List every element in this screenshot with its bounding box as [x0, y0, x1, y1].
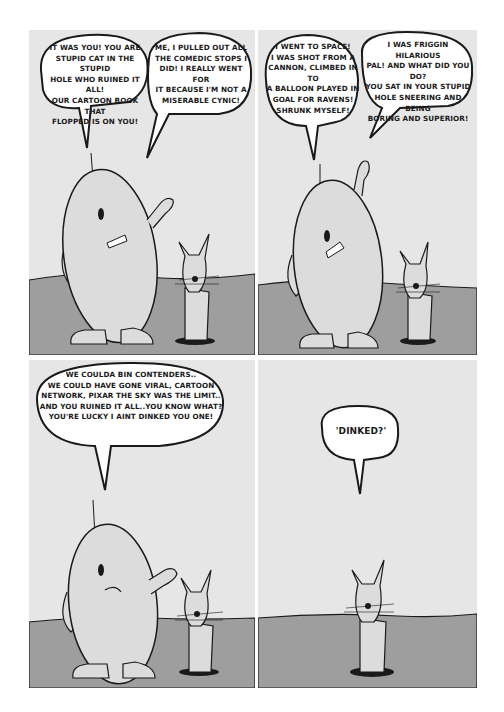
speech-bubble-2a: I went to space! I was shot from a canno…	[266, 42, 360, 116]
comic-panel-1: It was you! You are stupid cat in the st…	[29, 30, 255, 355]
comic-panel-2: I went to space! I was shot from a canno…	[258, 30, 477, 355]
comic-panel-3: We coulda bin contenders.. We could have…	[29, 360, 255, 688]
panel-4-scene	[258, 360, 477, 688]
speech-bubble-4: 'Dinked?'	[322, 426, 400, 437]
speech-bubble-1b: Me, I pulled out all the comedic stops I…	[151, 43, 251, 107]
speech-bubble-2b: I was friggin hilarious pal! And what di…	[364, 40, 472, 125]
comic-panel-4: 'Dinked?'	[258, 360, 477, 688]
speech-bubble-1a: It was you! You are stupid cat in the st…	[43, 43, 147, 128]
speech-bubble-3: We coulda bin contenders.. We could have…	[39, 370, 223, 423]
